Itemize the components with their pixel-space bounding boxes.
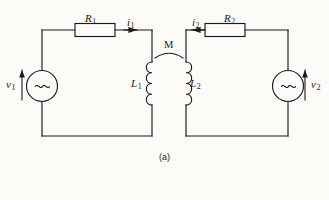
label-l1: L1 xyxy=(131,78,142,91)
label-v1-subscript: 1 xyxy=(11,83,16,92)
circuit-schematic xyxy=(0,0,329,200)
mutual-coupling-arc xyxy=(155,53,183,58)
source-v1-body xyxy=(27,71,58,102)
label-m: M xyxy=(164,40,173,51)
source-v2-body xyxy=(273,71,304,102)
label-r2: R2 xyxy=(224,13,235,26)
label-i1-subscript: 1 xyxy=(130,21,135,30)
label-i2-subscript: 2 xyxy=(195,21,200,30)
label-v2: v2 xyxy=(311,79,320,92)
label-v2-subscript: 2 xyxy=(316,83,321,92)
label-l2-subscript: 2 xyxy=(196,82,201,91)
label-i1: i1 xyxy=(127,17,135,30)
figure-caption: (a) xyxy=(0,152,329,162)
label-l2: L2 xyxy=(190,78,201,91)
label-l1-subscript: 1 xyxy=(137,82,142,91)
label-r2-subscript: 2 xyxy=(231,17,236,26)
label-v1: v1 xyxy=(6,79,15,92)
inductor-l1-coil xyxy=(146,62,152,105)
label-i2: i2 xyxy=(192,17,200,30)
label-r1-subscript: 1 xyxy=(92,17,97,26)
circuit-figure: R1 R2 i1 i2 M L1 L2 v1 v2 (a) xyxy=(0,0,329,200)
label-r1: R1 xyxy=(85,13,96,26)
